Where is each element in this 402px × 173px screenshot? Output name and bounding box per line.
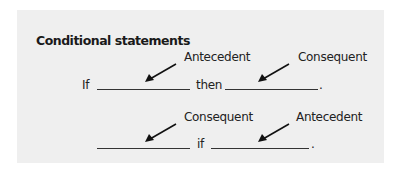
panel-title: Conditional statements	[36, 33, 190, 48]
row2-blank-consequent	[97, 148, 190, 149]
row1-connective-then: then	[196, 78, 222, 92]
row2-blank-antecedent	[211, 148, 309, 149]
arrow-down-left-icon	[257, 63, 291, 83]
row1-period: .	[319, 78, 323, 92]
row1-blank-consequent	[225, 89, 318, 90]
row2-label-right: Antecedent	[296, 110, 362, 124]
row2-label-left: Consequent	[184, 110, 253, 124]
row2-connective-if: if	[197, 137, 204, 151]
row1-label-left: Antecedent	[184, 50, 250, 64]
arrow-down-left-icon	[144, 63, 178, 83]
arrow-down-left-icon	[144, 123, 178, 143]
row1-blank-antecedent	[97, 89, 190, 90]
arrow-down-left-icon	[257, 123, 291, 143]
row2-period: .	[311, 137, 315, 151]
row1-connective-if: If	[82, 78, 89, 92]
row1-label-right: Consequent	[298, 50, 367, 64]
